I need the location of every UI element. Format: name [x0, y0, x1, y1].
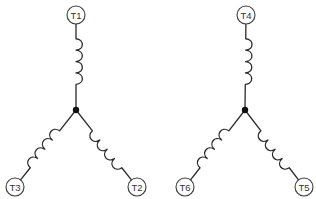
terminal-t6: T6	[176, 178, 194, 196]
junction-node	[242, 107, 248, 113]
branch-t5-winding-coil	[245, 110, 299, 180]
wye-right-group: T4T5T6	[176, 6, 313, 196]
branch-t6-winding-coil	[191, 110, 245, 180]
wye-connection-diagram: T1T2T3 T4T5T6	[0, 0, 316, 199]
terminal-t5: T5	[295, 178, 313, 196]
terminal-t1: T1	[67, 6, 85, 24]
terminal-label: T4	[240, 10, 251, 21]
terminal-label: T1	[70, 10, 81, 21]
terminal-label: T5	[298, 182, 309, 193]
terminal-t3: T3	[6, 178, 24, 196]
junction-node	[73, 107, 79, 113]
wye-left-group: T1T2T3	[6, 6, 146, 196]
terminal-label: T3	[9, 182, 20, 193]
branch-t3-winding-coil	[21, 110, 76, 180]
branch-t4-winding-coil	[245, 24, 252, 110]
branch-t2-winding-coil	[76, 110, 131, 180]
terminal-label: T6	[179, 182, 190, 193]
terminal-t4: T4	[237, 6, 255, 24]
terminal-label: T2	[131, 182, 142, 193]
branch-t1-winding-coil	[76, 24, 82, 110]
terminal-t2: T2	[128, 178, 146, 196]
